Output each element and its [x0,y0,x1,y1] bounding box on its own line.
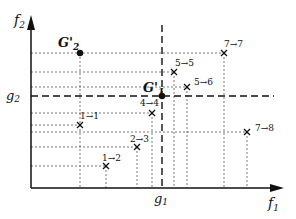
marker-4-4 [149,110,155,116]
g2-label: g2 [6,88,20,104]
g1-prime-label: G'1 [143,80,164,97]
label-4-4: 4→4 [140,98,159,108]
pareto-diagram: f2 f1 g2 g1 G'2 G'1 7→7 5→5 5→6 4→4 1→1 … [0,0,296,219]
marker-7-7 [221,50,227,56]
label-1-2: 1→2 [102,153,121,163]
label-2-3: 2→3 [130,134,149,144]
point-labels: 7→7 5→5 5→6 4→4 1→1 7→8 2→3 1→2 [80,39,274,163]
label-5-6: 5→6 [194,77,213,87]
label-7-8: 7→8 [255,123,274,133]
label-7-7: 7→7 [224,39,243,49]
label-5-5: 5→5 [175,58,194,68]
g1-label: g1 [154,191,168,207]
g2-prime-label: G'2 [58,35,79,52]
y-axis-label: f2 [13,12,25,30]
x-axis-label: f1 [267,195,279,213]
y-axis-arrow-icon [27,15,35,30]
x-axis-arrow-icon [270,184,284,192]
marker-2-3 [134,144,140,150]
projection-lines [31,53,247,188]
label-1-1: 1→1 [80,111,99,121]
